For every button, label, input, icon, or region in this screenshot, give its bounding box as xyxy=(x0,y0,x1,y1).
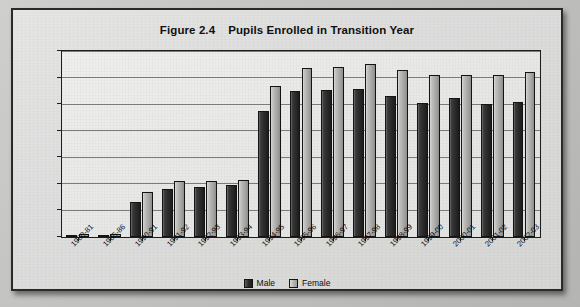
bar-female-1999-00 xyxy=(429,75,440,237)
screenshot-page: Figure 2.4Pupils Enrolled in Transition … xyxy=(0,0,580,307)
bar-male-2002-03 xyxy=(513,102,524,237)
legend-swatch-female-icon xyxy=(289,279,298,288)
legend-item-male: Male xyxy=(244,278,275,288)
bar-male-2001-02 xyxy=(481,104,492,237)
y-axis-tick-mark xyxy=(57,236,61,237)
bar-series-container xyxy=(62,51,540,237)
y-axis-tick-mark xyxy=(57,50,61,51)
bar-group xyxy=(317,51,349,237)
figure-number: Figure 2.4 xyxy=(160,24,215,36)
bar-male-2000-01 xyxy=(449,98,460,237)
y-axis-tick-mark xyxy=(57,103,61,104)
page-title: Figure 2.4Pupils Enrolled in Transition … xyxy=(13,24,561,36)
bar-group xyxy=(508,51,540,237)
chart-legend: Male Female xyxy=(13,278,561,288)
y-axis-tick-mark xyxy=(57,209,61,210)
bar-male-1994-95 xyxy=(258,111,269,237)
legend-label-female: Female xyxy=(302,278,330,288)
bar-male-1993-94 xyxy=(226,185,237,237)
bar-female-1994-95 xyxy=(270,86,281,237)
y-axis-tick-mark xyxy=(57,130,61,131)
bar-female-1996-97 xyxy=(333,67,344,237)
legend-swatch-male-icon xyxy=(244,279,253,288)
y-axis-tick-mark xyxy=(57,156,61,157)
legend-item-female: Female xyxy=(289,278,330,288)
bar-male-1996-97 xyxy=(321,90,332,237)
bar-group xyxy=(158,51,190,237)
bar-male-1992-93 xyxy=(194,187,205,237)
bar-female-1995-96 xyxy=(302,68,313,237)
plot-area xyxy=(61,50,541,238)
legend-label-male: Male xyxy=(257,278,275,288)
bar-group xyxy=(285,51,317,237)
y-axis-tick-mark xyxy=(57,77,61,78)
y-axis-tick-mark xyxy=(57,183,61,184)
bar-female-2001-02 xyxy=(493,75,504,237)
bar-group xyxy=(381,51,413,237)
bar-group xyxy=(444,51,476,237)
bar-group xyxy=(253,51,285,237)
chart-panel: Figure 2.4Pupils Enrolled in Transition … xyxy=(11,8,563,291)
bar-male-1990-91 xyxy=(130,202,141,237)
figure-title: Pupils Enrolled in Transition Year xyxy=(228,24,414,36)
bar-female-2002-03 xyxy=(525,72,536,237)
bar-female-1998-99 xyxy=(397,70,408,237)
bar-group xyxy=(413,51,445,237)
bar-male-1997-98 xyxy=(353,89,364,237)
bar-male-1995-96 xyxy=(290,91,301,237)
bar-group xyxy=(62,51,94,237)
bar-group xyxy=(221,51,253,237)
bar-group xyxy=(126,51,158,237)
bar-male-1998-99 xyxy=(385,96,396,237)
bar-group xyxy=(349,51,381,237)
bar-group xyxy=(94,51,126,237)
bar-female-1997-98 xyxy=(365,64,376,237)
bar-male-1991-92 xyxy=(162,189,173,237)
bar-group xyxy=(189,51,221,237)
bar-male-1999-00 xyxy=(417,103,428,237)
bar-group xyxy=(476,51,508,237)
bar-female-2000-01 xyxy=(461,75,472,237)
